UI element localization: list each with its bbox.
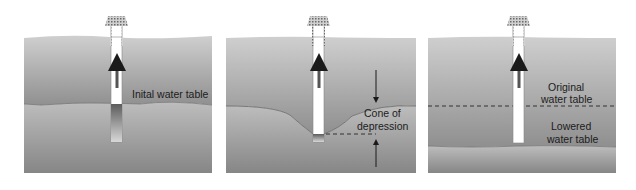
pump-pipe-left (512, 26, 514, 46)
panel-initial: Inital water table (24, 16, 212, 173)
pump-pipe-right (324, 26, 326, 46)
pump-pipe-left (110, 26, 112, 46)
label-original-line2: water table (540, 93, 593, 105)
panel-cone: Cone of depression (226, 16, 416, 173)
panel-lowered: Original water table Lowered water table (428, 16, 616, 173)
well-screen (111, 104, 122, 142)
well-screen (313, 134, 324, 142)
label-initial-water-table: Inital water table (132, 88, 209, 100)
well-diagram: Inital water table Cone of depression Or… (0, 0, 636, 190)
pump-cap-icon (105, 16, 128, 26)
pump-pipe-left (312, 26, 314, 46)
label-lowered-line1: Lowered (551, 120, 591, 132)
well-casing (513, 37, 524, 143)
pump-pipe-right (122, 26, 124, 46)
pump-cap-icon (307, 16, 330, 26)
pump-cap-icon (507, 16, 530, 26)
saturated-zone (428, 146, 616, 173)
label-lowered-line2: water table (546, 133, 599, 145)
label-original-line1: Original (548, 81, 584, 93)
well-casing (313, 37, 324, 142)
pump-pipe-right (524, 26, 526, 46)
label-cone-line2: depression (357, 120, 409, 132)
label-cone-line1: Cone of (364, 107, 401, 119)
